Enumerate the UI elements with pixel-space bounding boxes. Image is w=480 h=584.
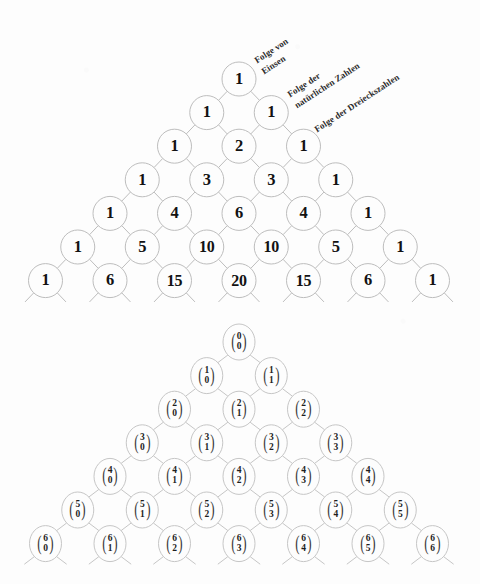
- left-paren-icon: (: [263, 434, 267, 452]
- binomial-bottom: 2: [269, 443, 274, 453]
- binomial-stack: 65: [366, 534, 371, 554]
- binomial-notation: (65): [359, 534, 378, 554]
- pascal-value-n6-k6: 1: [416, 264, 450, 298]
- pascal-value-n6-k3: 20: [222, 264, 256, 298]
- binomial-notation: (10): [197, 366, 216, 386]
- right-paren-icon: ): [275, 501, 279, 519]
- binomial-stack: 21: [237, 399, 242, 419]
- binomial-bottom: 0: [108, 476, 113, 486]
- binomial-bottom: 1: [269, 376, 274, 386]
- left-paren-icon: (: [166, 400, 170, 418]
- left-paren-icon: (: [231, 400, 235, 418]
- right-paren-icon: ): [81, 501, 85, 519]
- binomial-notation: (30): [133, 433, 152, 453]
- binomial-n6-k1: (61): [93, 526, 127, 562]
- binomial-n3-k1: (31): [190, 425, 224, 461]
- binomial-bottom: 3: [333, 443, 338, 453]
- left-paren-icon: (: [295, 400, 299, 418]
- pascal-value-n6-k4: 15: [287, 264, 321, 298]
- binomial-stack: 55: [398, 500, 403, 520]
- binomial-notation: (20): [165, 399, 184, 419]
- binomial-stack: 40: [108, 466, 113, 486]
- left-paren-icon: (: [231, 535, 235, 553]
- binomial-bottom: 3: [269, 510, 274, 520]
- binomial-bottom: 0: [172, 409, 177, 419]
- left-paren-icon: (: [424, 535, 428, 553]
- binomial-stack: 20: [172, 399, 177, 419]
- left-paren-icon: (: [328, 501, 332, 519]
- binomial-bottom: 3: [301, 476, 306, 486]
- binomial-stack: 66: [430, 534, 435, 554]
- binomial-stack: 42: [237, 466, 242, 486]
- binomial-stack: 50: [75, 500, 80, 520]
- pascal-value-n4-k0: 1: [93, 196, 127, 230]
- binomial-stack: 44: [366, 466, 371, 486]
- binomial-n1-k1: (11): [254, 358, 288, 394]
- binomial-n6-k2: (62): [158, 526, 192, 562]
- left-paren-icon: (: [263, 501, 267, 519]
- binomial-bottom: 2: [301, 409, 306, 419]
- binomial-notation: (42): [230, 466, 249, 486]
- pascal-value-n5-k0: 1: [61, 230, 95, 264]
- binomial-bottom: 1: [237, 409, 242, 419]
- binomial-bottom: 1: [172, 476, 177, 486]
- pascal-value-n6-k1: 6: [93, 264, 127, 298]
- pascal-value-n5-k4: 5: [319, 230, 353, 264]
- left-paren-icon: (: [102, 467, 106, 485]
- left-paren-icon: (: [134, 501, 138, 519]
- binomial-stack: 00: [237, 332, 242, 352]
- binomial-bottom: 5: [398, 510, 403, 520]
- binomial-n6-k4: (64): [287, 526, 321, 562]
- binomial-notation: (00): [230, 332, 249, 352]
- binomial-bottom: 0: [204, 376, 209, 386]
- binomial-n3-k2: (32): [254, 425, 288, 461]
- binomial-bottom: 1: [140, 510, 145, 520]
- binomial-notation: (53): [262, 500, 281, 520]
- right-paren-icon: ): [146, 434, 150, 452]
- binomial-n6-k6: (66): [416, 526, 450, 562]
- left-paren-icon: (: [328, 434, 332, 452]
- binomial-stack: 31: [204, 433, 209, 453]
- pascal-value-n2-k1: 2: [222, 129, 256, 163]
- pascal-value-n4-k4: 1: [351, 196, 385, 230]
- binomial-n5-k3: (53): [254, 492, 288, 528]
- binomial-notation: (62): [165, 534, 184, 554]
- pascal-value-n2-k0: 1: [158, 129, 192, 163]
- left-paren-icon: (: [231, 333, 235, 351]
- binomial-stack: 60: [43, 534, 48, 554]
- left-paren-icon: (: [102, 535, 106, 553]
- binomial-notation: (32): [262, 433, 281, 453]
- binomial-notation: (63): [230, 534, 249, 554]
- binomial-notation: (55): [391, 500, 410, 520]
- left-paren-icon: (: [166, 467, 170, 485]
- binomial-bottom: 4: [333, 510, 338, 520]
- binomial-bottom: 0: [237, 342, 242, 352]
- right-paren-icon: ): [436, 535, 440, 553]
- binomial-notation: (54): [326, 500, 345, 520]
- left-paren-icon: (: [295, 467, 299, 485]
- pascal-value-n5-k2: 10: [190, 230, 224, 264]
- binomial-n1-k0: (10): [190, 358, 224, 394]
- right-paren-icon: ): [178, 400, 182, 418]
- right-paren-icon: ): [210, 434, 214, 452]
- binomial-bottom: 2: [204, 510, 209, 520]
- left-paren-icon: (: [199, 434, 203, 452]
- right-paren-icon: ): [243, 400, 247, 418]
- pascal-value-n5-k1: 5: [125, 230, 159, 264]
- figure-page: 111121133114641151010511615201561 (00)(1…: [0, 0, 480, 584]
- left-paren-icon: (: [231, 467, 235, 485]
- binomial-bottom: 2: [172, 544, 177, 554]
- binomial-n5-k1: (51): [125, 492, 159, 528]
- binomial-stack: 63: [237, 534, 242, 554]
- binomial-bottom: 5: [366, 544, 371, 554]
- pascal-value-n3-k0: 1: [125, 163, 159, 197]
- left-paren-icon: (: [392, 501, 396, 519]
- binomial-stack: 32: [269, 433, 274, 453]
- pascal-value-n6-k0: 1: [29, 264, 63, 298]
- binomial-bottom: 0: [43, 544, 48, 554]
- right-paren-icon: ): [275, 434, 279, 452]
- binomial-stack: 53: [269, 500, 274, 520]
- binomial-notation: (31): [197, 433, 216, 453]
- right-paren-icon: ): [404, 501, 408, 519]
- binomial-stack: 41: [172, 466, 177, 486]
